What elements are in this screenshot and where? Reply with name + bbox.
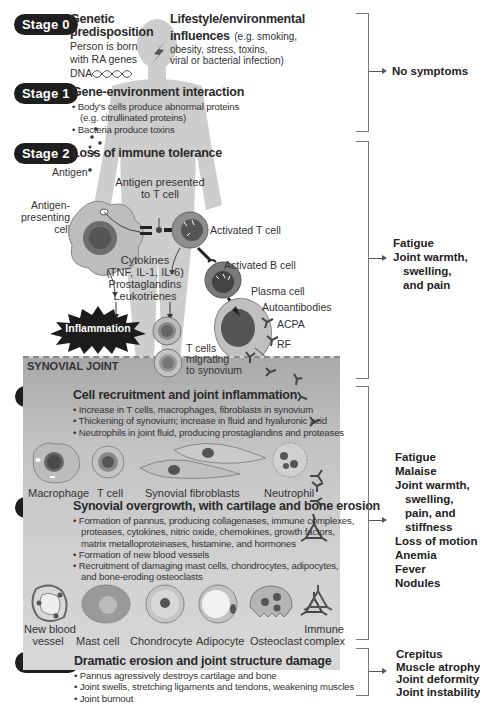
cell-label-t-cell: T cell — [97, 487, 123, 499]
symptom-item: Loss of motion — [395, 534, 477, 548]
activated-b-cell-label: Activated B cell — [224, 259, 296, 271]
stage-4-title: Synovial overgrowth, with cartilage and … — [73, 500, 380, 513]
symptom-item: Malaise — [395, 464, 477, 478]
dna-helix-icon — [92, 69, 132, 79]
lifestyle-text-1: (e.g. smoking, — [234, 31, 297, 42]
bracket-stage-0-1 — [356, 13, 369, 132]
genetic-title-2: predisposition — [70, 26, 153, 39]
stage-3-bullet: • Increase in T cells, macrophages, fibr… — [73, 404, 344, 415]
antigen-presented-line1: Antigen presented — [105, 176, 215, 188]
lifestyle-influences: Lifestyle/environmental influences (e.g.… — [170, 13, 305, 66]
cell-label-chondrocyte: Chondrocyte — [130, 635, 192, 647]
antigen-label: Antigen — [52, 166, 88, 178]
cytokines-line4: Leukotrienes — [90, 290, 200, 302]
stage-4-bullet: • Formation of pannus, producing collage… — [73, 515, 380, 526]
synovial-joint-label: SYNOVIAL JOINT — [27, 360, 118, 372]
inflammation-label: Inflammation — [62, 322, 134, 334]
stage-1-bullet: (e.g. citrullinated proteins) — [72, 112, 244, 123]
t-cells-migrating-label: T cells migrating to synovium — [186, 343, 242, 376]
migrating-t-cell-icon — [153, 348, 183, 378]
t-migrating-line3: to synovium — [186, 365, 242, 376]
symptoms-group-2: Fatigue Joint warmth, swelling, and pain — [393, 236, 468, 292]
lifestyle-title-1: Lifestyle/environmental — [170, 13, 305, 26]
stage-5-bullet: • Joint burnout — [74, 693, 354, 704]
symptom-item: Joint warmth, — [395, 478, 477, 492]
cell-label-mast-cell: Mast cell — [76, 635, 119, 647]
lifestyle-text-2: obesity, stress, toxins, — [170, 44, 305, 55]
t-cell-icon — [152, 316, 182, 346]
cell-label-synovial-fibroblasts: Synovial fibroblasts — [145, 487, 240, 499]
stage-5-bullet: • Pannus agressively destroys cartilage … — [74, 670, 354, 681]
cytokines-label: Cytokines (TNF, IL-1, IL-6) Prostaglandi… — [90, 254, 200, 302]
stage-4-content: Synovial overgrowth, with cartilage and … — [73, 500, 380, 583]
symptom-item: Fatigue — [393, 236, 468, 250]
immune-complex-line2: complex — [304, 635, 344, 647]
symptom-item: Joint warmth, — [393, 250, 468, 264]
stage-3-content: Cell recruitment and joint inflammation … — [73, 389, 344, 438]
stage-2-title: Loss of immune tolerance — [72, 147, 222, 160]
symptom-item: stiffness — [395, 520, 477, 534]
plasma-cell-label: Plasma cell — [251, 285, 305, 297]
immune-complex-line1: Immune — [304, 623, 344, 635]
symptom-item: Anemia — [395, 548, 477, 562]
stage-3-bullet: • Thickening of synovium; increase in fl… — [73, 415, 344, 426]
stage-1-bullet: • Body's cells produce abnormal proteins — [72, 101, 244, 112]
symptom-item: No symptoms — [392, 64, 468, 78]
arrow-stage-3-4-symptoms — [369, 520, 383, 521]
genetic-predisposition: Genetic predisposition Person is born wi… — [70, 13, 153, 79]
bracket-stage-3-4 — [356, 386, 369, 640]
stage-4-bullet: • Formation of new blood vessels — [73, 549, 380, 560]
lifestyle-text-3: viral or bacterial infection) — [170, 55, 305, 66]
new-blood-vessel-line2: vessel — [24, 635, 72, 647]
symptom-item: Muscle atrophy — [396, 661, 480, 674]
lightning-bolt-icon — [148, 38, 170, 68]
stage-2-pill: Stage 2 — [14, 143, 78, 164]
dna-label: DNA — [70, 68, 92, 79]
stage-4-bullet: and bone-eroding osteoclasts — [73, 571, 380, 582]
stage-3-cells — [28, 440, 318, 486]
arrow-stage-5-symptoms — [369, 671, 383, 672]
symptom-item: swelling, — [393, 264, 468, 278]
stage-4-cell-labels: New blood vessel Mast cell Chondrocyte A… — [24, 623, 340, 649]
stage-0-pill: Stage 0 — [14, 14, 78, 35]
cytokines-line3: Prostaglandins — [90, 278, 200, 290]
symptom-item: swelling, — [395, 492, 477, 506]
stage-3-bullet: • Neutrophils in joint fluid, producing … — [73, 427, 344, 438]
genetic-text-2: with RA genes — [70, 53, 153, 66]
symptom-item: Crepitus — [396, 648, 480, 661]
lifestyle-title-2: influences — [170, 29, 230, 43]
arrow-stage-2-symptoms — [369, 258, 383, 259]
symptoms-group-3: Fatigue Malaise Joint warmth, swelling, … — [395, 450, 477, 590]
stage-1-title: Gene-environment interaction — [72, 86, 244, 99]
stage-5-content: Dramatic erosion and joint structure dam… — [74, 655, 354, 704]
new-blood-vessel-line1: New blood — [24, 623, 72, 635]
genetic-text-1: Person is born — [70, 40, 153, 53]
symptom-item: and pain — [393, 278, 468, 292]
symptom-item: Joint instability — [396, 686, 480, 699]
stage-5-title: Dramatic erosion and joint structure dam… — [74, 655, 354, 668]
cell-label-new-blood-vessel: New blood vessel — [24, 623, 72, 647]
cell-label-macrophage: Macrophage — [28, 487, 89, 499]
arrow-no-symptoms — [369, 71, 383, 72]
cell-label-neutrophil: Neutrophil — [264, 487, 314, 499]
bracket-stage-5 — [356, 648, 369, 696]
symptom-item: Fever — [395, 562, 477, 576]
symptoms-group-4: Crepitus Muscle atrophy Joint deformity … — [396, 648, 480, 698]
cell-label-osteoclast: Osteoclast — [250, 635, 302, 647]
cytokines-line1: Cytokines — [90, 254, 200, 266]
cell-label-adipocyte: Adipocyte — [196, 635, 244, 647]
symptom-item: Nodules — [395, 576, 477, 590]
symptoms-group-1: No symptoms — [392, 64, 468, 78]
symptom-item: Fatigue — [395, 450, 477, 464]
stage-3-title: Cell recruitment and joint inflammation — [73, 389, 344, 402]
activated-t-cell-label: Activated T cell — [210, 224, 281, 236]
stage-4-cells — [28, 583, 338, 625]
cytokines-line2: (TNF, IL-1, IL-6) — [90, 266, 200, 278]
stage-1-pill: Stage 1 — [14, 83, 78, 104]
symptom-item: pain, and — [395, 506, 477, 520]
stage-5-bullet: • Joint swells, stretching ligaments and… — [74, 681, 354, 692]
symptom-item: Joint deformity — [396, 673, 480, 686]
stage-4-bullet: proteases, cytokines, nitric oxide, chem… — [73, 526, 380, 537]
stage-4-bullet: • Recruitment of damaging mast cells, ch… — [73, 560, 380, 571]
cell-label-immune-complex: Immune complex — [304, 623, 344, 647]
